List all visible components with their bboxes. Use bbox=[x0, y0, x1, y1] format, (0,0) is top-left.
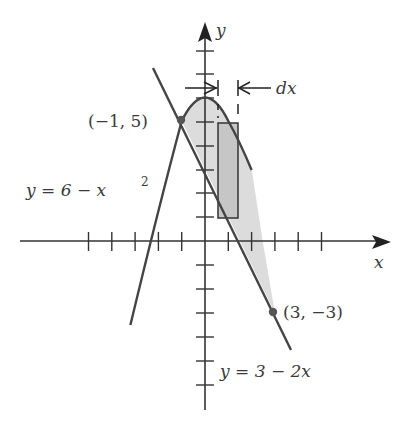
y-axis-label: y bbox=[215, 20, 226, 40]
approximating-rectangle bbox=[218, 123, 238, 218]
area-between-curves-figure: y x dx (−1, 5) (3, −3) y = 6 − x 2 y = 3… bbox=[0, 0, 395, 423]
x-axis-arrow-icon bbox=[372, 235, 391, 249]
line-equation-label: y = 3 − 2x bbox=[219, 361, 311, 381]
point-a-label: (−1, 5) bbox=[88, 111, 148, 131]
parabola-eq-text: y = 6 − x bbox=[25, 180, 107, 200]
x-axis-label: x bbox=[374, 252, 384, 272]
parabola-equation-label: y = 6 − x 2 bbox=[25, 175, 149, 200]
point-a-marker bbox=[177, 116, 185, 124]
parabola-exponent: 2 bbox=[141, 175, 149, 189]
point-b-label: (3, −3) bbox=[283, 302, 343, 322]
dx-label: dx bbox=[276, 78, 297, 98]
svg-text:y = 6 − x: y = 6 − x bbox=[25, 180, 107, 200]
point-b-marker bbox=[269, 308, 277, 316]
